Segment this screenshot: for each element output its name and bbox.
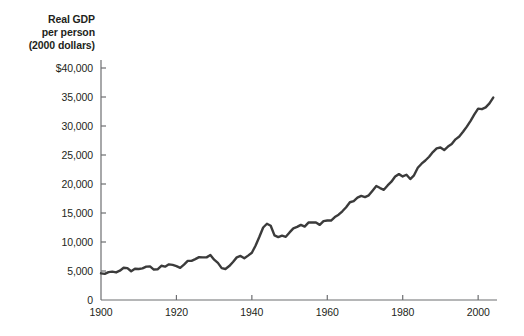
y-axis-tick-label: 5,000 (31, 265, 93, 277)
y-axis (101, 60, 106, 300)
x-axis-tick-label: 1920 (151, 306, 201, 318)
x-axis-tick-label: 1960 (302, 306, 352, 318)
x-axis (101, 295, 497, 300)
y-axis-tick-label: 20,000 (31, 178, 93, 190)
y-axis-ticks (101, 68, 106, 271)
real-gdp-per-person-chart: Real GDP per person (2000 dollars) 05,00… (0, 0, 524, 336)
y-axis-tick-label: 15,000 (31, 207, 93, 219)
y-axis-tick-label: $40,000 (31, 62, 93, 74)
chart-plot-area (0, 0, 524, 336)
gdp-series-line (101, 98, 493, 274)
y-axis-tick-label: 10,000 (31, 236, 93, 248)
x-axis-ticks (176, 295, 478, 300)
x-axis-tick-label: 1940 (227, 306, 277, 318)
y-axis-tick-label: 30,000 (31, 120, 93, 132)
x-axis-tick-label: 1900 (76, 306, 126, 318)
y-axis-tick-label: 35,000 (31, 91, 93, 103)
y-axis-tick-label: 25,000 (31, 149, 93, 161)
y-axis-tick-label: 0 (31, 294, 93, 306)
x-axis-tick-label: 2000 (453, 306, 503, 318)
x-axis-tick-label: 1980 (378, 306, 428, 318)
